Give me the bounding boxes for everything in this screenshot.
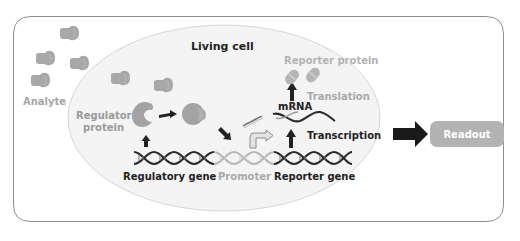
regulator-protein-label: protein [83,122,124,133]
analyte-label: Analyte [23,96,66,107]
reporter-gene-label: Reporter gene [274,171,355,182]
regulatory-gene-label: Regulatory gene [123,171,217,182]
readout-label: Readout [443,129,490,140]
readout-box: Readout [430,121,504,147]
promoter-label: Promoter [218,171,271,182]
transcription-label: Transcription [307,130,381,141]
diagram-canvas: Living cell Analyte Regulator protein [0,0,520,241]
translation-label: Translation [307,91,370,102]
living-cell-label: Living cell [191,40,254,53]
reporter-protein-label: Reporter protein [284,55,379,66]
mrna-label: mRNA [278,101,312,112]
regulator-protein-label: Regulator [76,110,132,121]
